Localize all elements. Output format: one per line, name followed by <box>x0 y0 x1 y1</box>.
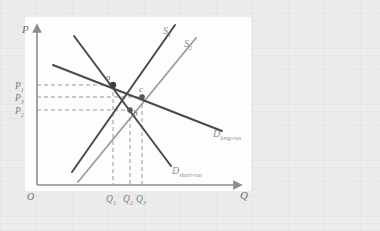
axis-group <box>37 28 238 185</box>
point-label-b: b <box>133 108 138 118</box>
y-axis-label: P <box>21 23 29 35</box>
point-label-a: a <box>106 72 111 82</box>
quantity-tick-q3: Q3 <box>136 194 146 206</box>
guide-lines-group <box>37 85 142 185</box>
curve-label-s2: S2 <box>184 38 192 51</box>
price-tick-p2: P2 <box>14 106 24 118</box>
x-axis-label: Q <box>240 189 248 201</box>
curve-labels-group: S1 S2 Dlong-run Dshort-run <box>163 25 241 178</box>
price-tick-p1: P1 <box>14 81 24 93</box>
equilibrium-point-c <box>139 94 145 100</box>
quantity-tick-labels-group: Q1 Q2 Q3 <box>106 194 146 206</box>
origin-label: O <box>27 191 34 202</box>
point-label-c: c <box>139 84 143 94</box>
curve-label-d-long-run: Dlong-run <box>212 128 241 141</box>
price-tick-labels-group: P1 P3 P2 <box>14 81 24 118</box>
curves-group <box>53 25 222 182</box>
demand-curve-short-run <box>74 36 171 166</box>
supply-demand-figure: P Q O P1 P3 P2 Q1 Q2 Q3 S1 S2 <box>0 0 380 231</box>
curve-label-d-short-run: Dshort-run <box>171 165 202 178</box>
quantity-tick-q1: Q1 <box>106 194 116 206</box>
quantity-tick-q2: Q2 <box>123 194 133 206</box>
curve-label-s1: S1 <box>163 25 171 38</box>
equilibrium-point-a <box>110 82 116 88</box>
equilibrium-point-b <box>127 107 133 113</box>
price-tick-p3: P3 <box>14 93 24 105</box>
